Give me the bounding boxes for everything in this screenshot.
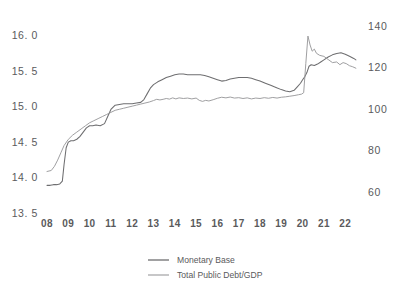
left-axis-tick-3: 15. 0 [12,100,38,112]
x-axis-tick-20: 20 [297,218,309,229]
left-axis-tick-5: 16. 0 [12,29,38,41]
plot-series-group [47,36,356,185]
left-axis-tick-2: 14. 5 [12,136,38,148]
left-axis-tick-0: 13. 5 [12,207,38,219]
left-axis-tick-labels: 13. 514. 014. 515. 015. 516. 0 [12,29,38,218]
series-line-total-public-debt-gdp [47,36,356,171]
x-axis-tick-12: 12 [126,218,138,229]
right-axis-tick-4: 140 [368,20,387,32]
x-axis-tick-21: 21 [318,218,330,229]
x-axis-tick-17: 17 [233,218,245,229]
right-axis-tick-3: 120 [368,61,387,73]
x-axis-tick-16: 16 [211,218,223,229]
right-axis-tick-labels: 6080100120140 [368,20,387,198]
chart-legend: Monetary BaseTotal Public Debt/GDP [148,255,263,280]
x-axis-tick-15: 15 [190,218,202,229]
right-axis-tick-0: 60 [368,186,381,198]
x-axis-tick-09: 09 [62,218,74,229]
x-axis-tick-18: 18 [254,218,266,229]
x-axis-tick-22: 22 [339,218,351,229]
dual-axis-line-chart: 13. 514. 014. 515. 015. 516. 0 608010012… [0,0,398,299]
series-line-monetary-base [47,53,356,186]
x-axis-tick-14: 14 [169,218,181,229]
x-axis-tick-10: 10 [84,218,96,229]
x-axis-tick-19: 19 [275,218,287,229]
x-axis-tick-11: 11 [105,218,116,229]
left-axis-tick-4: 15. 5 [12,65,38,77]
x-axis-tick-08: 08 [41,218,53,229]
chart-container: 13. 514. 014. 515. 015. 516. 0 608010012… [0,0,398,299]
x-axis-tick-13: 13 [148,218,160,229]
right-axis-tick-1: 80 [368,144,381,156]
legend-label-0: Monetary Base [177,255,235,265]
legend-label-1: Total Public Debt/GDP [177,270,263,280]
left-axis-tick-1: 14. 0 [12,171,38,183]
x-axis-tick-labels: 080910111213141516171819202122 [41,218,351,229]
right-axis-tick-2: 100 [368,103,387,115]
